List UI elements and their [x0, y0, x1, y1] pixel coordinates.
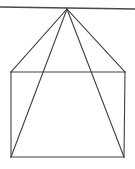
canvas-background	[0, 0, 135, 169]
geometric-figure	[0, 0, 135, 169]
